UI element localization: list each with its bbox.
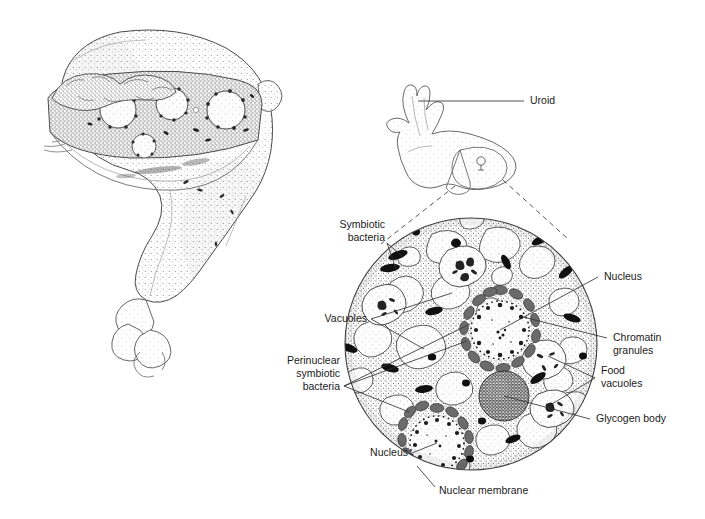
label-vacuoles: Vacuoles xyxy=(325,312,367,324)
symbiotic-bacterium xyxy=(462,380,470,387)
illustration-svg: Uroid xyxy=(0,0,705,519)
label-glycogen-body: Glycogen body xyxy=(596,412,667,424)
left-panel-organism xyxy=(30,20,300,377)
label-food-vacuoles-line2: vacuoles xyxy=(601,377,642,389)
label-chromatin-line2: granules xyxy=(613,344,653,356)
label-perinuclear-line3: bacteria xyxy=(303,380,341,392)
label-symbiotic-bacteria-line1: Symbiotic xyxy=(339,218,385,230)
label-food-vacuoles-line1: Food xyxy=(601,364,625,376)
label-nucleus-upper: Nucleus xyxy=(604,270,642,282)
cell-cross-section xyxy=(339,207,597,481)
symbiotic-bacterium xyxy=(516,463,524,469)
symbiotic-bacterium xyxy=(478,418,486,425)
label-nucleus-lower: Nucleus xyxy=(370,446,408,458)
label-chromatin-line1: Chromatin xyxy=(613,331,662,343)
organism-pseudopodia xyxy=(112,299,171,377)
label-nuclear-membrane: Nuclear membrane xyxy=(439,484,528,496)
symbiotic-bacterium xyxy=(579,353,587,360)
vacuole xyxy=(436,372,473,405)
figure-root: Uroid xyxy=(0,0,705,519)
label-perinuclear-line2: symbiotic xyxy=(296,367,340,379)
label-uroid: Uroid xyxy=(530,94,555,106)
symbiotic-bacterium xyxy=(466,456,474,463)
label-perinuclear-line1: Perinuclear xyxy=(287,354,341,366)
symbiotic-bacterium xyxy=(451,239,461,248)
label-symbiotic-bacteria-line2: bacteria xyxy=(348,231,386,243)
